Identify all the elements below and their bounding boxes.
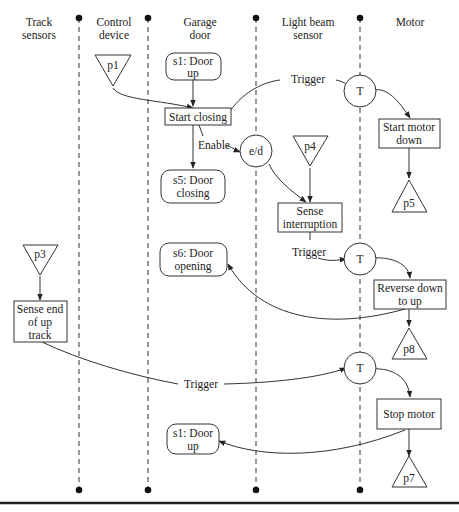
place-p4: p4 bbox=[293, 136, 328, 166]
svg-text:Garage: Garage bbox=[183, 16, 216, 29]
svg-text:down: down bbox=[396, 134, 422, 146]
svg-text:Light beam: Light beam bbox=[282, 16, 335, 29]
svg-text:p1: p1 bbox=[107, 59, 119, 72]
svg-text:up: up bbox=[187, 67, 199, 80]
svg-text:Stop motor: Stop motor bbox=[383, 408, 435, 421]
activity-reverse-down-to-up: Reverse down to up bbox=[374, 280, 446, 309]
svg-text:e/d: e/d bbox=[249, 145, 263, 157]
svg-text:interruption: interruption bbox=[283, 218, 338, 231]
state-s1-bottom: s1: Door up bbox=[167, 424, 219, 454]
svg-text:door: door bbox=[189, 29, 210, 41]
svg-text:Trigger: Trigger bbox=[292, 246, 326, 259]
transition-T3: T bbox=[344, 352, 376, 384]
svg-text:sensors: sensors bbox=[22, 29, 56, 41]
svg-text:closing: closing bbox=[176, 187, 209, 200]
svg-text:Track: Track bbox=[26, 16, 53, 28]
place-p1: p1 bbox=[95, 55, 131, 86]
edge-label-trigger-3: Trigger bbox=[184, 378, 218, 391]
edge-label-trigger-2: Trigger bbox=[292, 246, 326, 259]
transition-T2: T bbox=[344, 243, 376, 275]
state-s6: s6: Door opening bbox=[160, 243, 227, 276]
svg-text:s5: Door: s5: Door bbox=[173, 174, 213, 186]
transition-T1: T bbox=[344, 75, 376, 107]
svg-text:T: T bbox=[356, 85, 363, 97]
place-p8: p8 bbox=[392, 328, 427, 359]
svg-text:p3: p3 bbox=[34, 248, 46, 261]
svg-text:Control: Control bbox=[96, 16, 131, 28]
lane-header-lightbeam: Light beam sensor bbox=[282, 16, 335, 41]
svg-text:Trigger: Trigger bbox=[184, 378, 218, 391]
svg-text:to up: to up bbox=[398, 295, 422, 308]
lane-header-motor: Motor bbox=[396, 16, 425, 28]
svg-text:T: T bbox=[356, 362, 363, 374]
svg-text:Motor: Motor bbox=[396, 16, 425, 28]
svg-text:p4: p4 bbox=[304, 140, 316, 153]
state-s5: s5: Door closing bbox=[161, 170, 225, 203]
svg-text:up: up bbox=[187, 440, 199, 453]
place-p7: p7 bbox=[392, 456, 427, 487]
svg-text:p8: p8 bbox=[403, 343, 415, 356]
svg-text:T: T bbox=[356, 253, 363, 265]
edge-label-enable: Enable bbox=[198, 139, 230, 151]
state-s1-top: s1: Door up bbox=[166, 53, 221, 80]
svg-text:track: track bbox=[29, 329, 52, 341]
svg-text:opening: opening bbox=[174, 260, 211, 273]
activity-start-closing: Start closing bbox=[165, 108, 231, 125]
svg-text:p7: p7 bbox=[403, 472, 415, 485]
svg-text:p5: p5 bbox=[403, 197, 415, 210]
svg-text:s6: Door: s6: Door bbox=[173, 247, 213, 259]
place-p5: p5 bbox=[392, 180, 427, 212]
svg-text:of up: of up bbox=[28, 316, 52, 329]
enable-disable-circle: e/d bbox=[240, 135, 272, 167]
activity-stop-motor: Stop motor bbox=[377, 399, 441, 429]
svg-text:Enable: Enable bbox=[198, 139, 230, 151]
svg-text:s1: Door: s1: Door bbox=[173, 427, 213, 439]
activity-sense-end-of-up-track: Sense end of up track bbox=[14, 301, 67, 342]
lane-header-track: Track sensors bbox=[22, 16, 56, 41]
svg-text:Start closing: Start closing bbox=[169, 111, 227, 124]
svg-text:Trigger: Trigger bbox=[291, 73, 325, 86]
svg-text:Reverse down: Reverse down bbox=[377, 282, 443, 294]
svg-text:s1: Door: s1: Door bbox=[173, 55, 213, 67]
svg-text:device: device bbox=[99, 29, 129, 41]
edge-label-trigger-1: Trigger bbox=[281, 72, 335, 86]
activity-start-motor-down: Start motor down bbox=[379, 119, 440, 148]
swimlane-diagram: Track sensors Control device Garage door… bbox=[0, 0, 459, 512]
place-p3: p3 bbox=[23, 245, 58, 275]
lane-header-garage: Garage door bbox=[183, 16, 216, 41]
svg-text:Sense end: Sense end bbox=[17, 303, 64, 315]
svg-text:Sense: Sense bbox=[297, 205, 324, 217]
lane-header-control: Control device bbox=[96, 16, 131, 41]
activity-sense-interruption: Sense interruption bbox=[278, 203, 342, 232]
svg-text:Start motor: Start motor bbox=[383, 121, 435, 133]
svg-text:sensor: sensor bbox=[293, 29, 323, 41]
